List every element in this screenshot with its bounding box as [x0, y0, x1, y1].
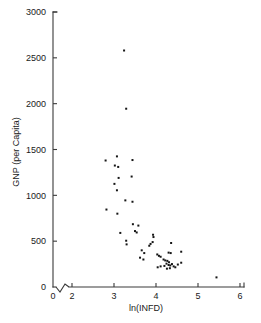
data-point [105, 160, 107, 162]
y-tick-label: 500 [31, 236, 46, 246]
data-point [142, 259, 144, 261]
data-point [170, 242, 172, 244]
data-point [124, 199, 126, 201]
data-point [131, 159, 133, 161]
y-tick-label: 3000 [26, 7, 46, 17]
data-point [174, 266, 176, 268]
x-tick-labels: 023456 [50, 291, 242, 301]
data-point [139, 257, 141, 259]
data-point [168, 261, 170, 263]
data-point [143, 252, 145, 254]
data-point [160, 256, 162, 258]
x-axis-break-zigzag [56, 284, 69, 292]
data-point [119, 232, 121, 234]
data-point [163, 265, 165, 267]
plot-canvas: 023456 050010001500200025003000 ln(INFD)… [0, 0, 261, 323]
x-axis-title: ln(INFD) [129, 303, 163, 313]
y-tick-label: 0 [41, 282, 46, 292]
data-point [152, 234, 154, 236]
data-point [168, 252, 170, 254]
data-point [114, 165, 116, 167]
data-point [132, 223, 134, 225]
data-point [169, 267, 171, 269]
x-tick-label: 6 [237, 291, 242, 301]
y-tick-label: 2000 [26, 99, 46, 109]
data-point [116, 189, 118, 191]
data-point [177, 264, 179, 266]
data-point [215, 276, 217, 278]
data-point [131, 201, 133, 203]
data-point [157, 266, 159, 268]
data-point [137, 225, 139, 227]
axes [53, 12, 244, 292]
data-point [105, 209, 107, 211]
y-tick-label: 1500 [26, 145, 46, 155]
data-point [117, 166, 119, 168]
data-point [160, 265, 162, 267]
data-point [152, 241, 154, 243]
y-tick-label: 1000 [26, 191, 46, 201]
data-point [123, 50, 125, 52]
y-tick-labels: 050010001500200025003000 [26, 7, 46, 292]
x-tick-label: 2 [69, 291, 74, 301]
data-point [116, 213, 118, 215]
data-point [166, 263, 168, 265]
x-tick-label: 3 [111, 291, 116, 301]
data-point [116, 155, 118, 157]
data-point [166, 268, 168, 270]
data-point [118, 177, 120, 179]
data-point [126, 243, 128, 245]
data-point [180, 251, 182, 253]
tick-marks [53, 12, 240, 287]
data-point [125, 240, 127, 242]
scatter-plot-figure: 023456 050010001500200025003000 ln(INFD)… [0, 0, 261, 323]
x-tick-label: 0 [50, 291, 55, 301]
data-point [148, 245, 150, 247]
data-point [169, 264, 171, 266]
data-point [150, 243, 152, 245]
data-point [125, 108, 127, 110]
data-point [113, 183, 115, 185]
data-point [170, 252, 172, 254]
data-point [141, 249, 143, 251]
data-point [131, 176, 133, 178]
data-point [152, 236, 154, 238]
x-tick-label: 4 [153, 291, 158, 301]
data-point [180, 262, 182, 264]
y-tick-label: 2500 [26, 53, 46, 63]
y-axis-title: GNP (per Capita) [11, 117, 21, 186]
data-point [164, 259, 166, 261]
data-points [105, 50, 218, 279]
data-point [136, 231, 138, 233]
x-tick-label: 5 [195, 291, 200, 301]
